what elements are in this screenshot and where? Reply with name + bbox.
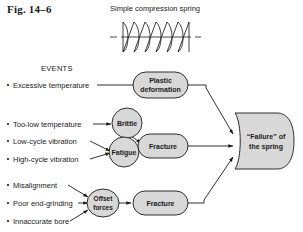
node-label-fracture-upper: Fracture <box>149 143 177 150</box>
outcome-label-line2: the spring <box>249 143 283 151</box>
connector-plastic-failure <box>188 85 233 134</box>
node-label-fatigue: Fatigue <box>112 149 137 157</box>
connector-inaccurate-bore <box>70 210 88 221</box>
node-failure-outcome[interactable] <box>235 113 294 169</box>
node-label-plastic-line1: Plastic <box>149 77 172 84</box>
node-label-plastic-line2: deformation <box>140 86 180 93</box>
spring-title: Simple compression spring <box>110 4 200 13</box>
event-label-inaccurate-bore: Innaccurate bore <box>13 217 69 226</box>
node-label-offset-line2: forces <box>93 204 113 211</box>
figure-page: Fig. 14–6 Simple compression spring EVEN… <box>0 0 303 232</box>
event-label-excessive-temperature: Excessive temperature <box>13 81 89 90</box>
event-label-poor-end-grinding: Poor end-grinding <box>13 199 73 208</box>
event-label-misalignment: Misalignment <box>13 181 58 190</box>
node-label-offset-line1: Offset <box>94 195 114 202</box>
connector-fracture-lower-failure <box>183 157 233 203</box>
event-label-high-cycle-vibration: High-cycle vibration <box>13 155 78 164</box>
connector-misalignment <box>68 185 88 197</box>
connector-high-cycle <box>90 153 110 159</box>
events-heading: EVENTS <box>41 64 73 73</box>
failure-flow-diagram: Fig. 14–6 Simple compression spring EVEN… <box>0 0 303 232</box>
connector-low-cycle <box>90 141 110 151</box>
figure-number: Fig. 14–6 <box>7 3 52 15</box>
node-label-fracture-lower: Fracture <box>146 200 174 207</box>
node-plastic-deformation[interactable] <box>133 72 188 98</box>
node-offset-forces[interactable] <box>87 189 119 217</box>
event-label-too-low-temperature: Too-low temperature <box>13 120 81 129</box>
node-label-brittle: Brittle <box>117 120 137 127</box>
outcome-label-line1: “Failure” of <box>247 133 286 140</box>
event-label-low-cycle-vibration: Low-cycle vibration <box>13 137 77 146</box>
bullet-dot-icon <box>7 84 9 222</box>
